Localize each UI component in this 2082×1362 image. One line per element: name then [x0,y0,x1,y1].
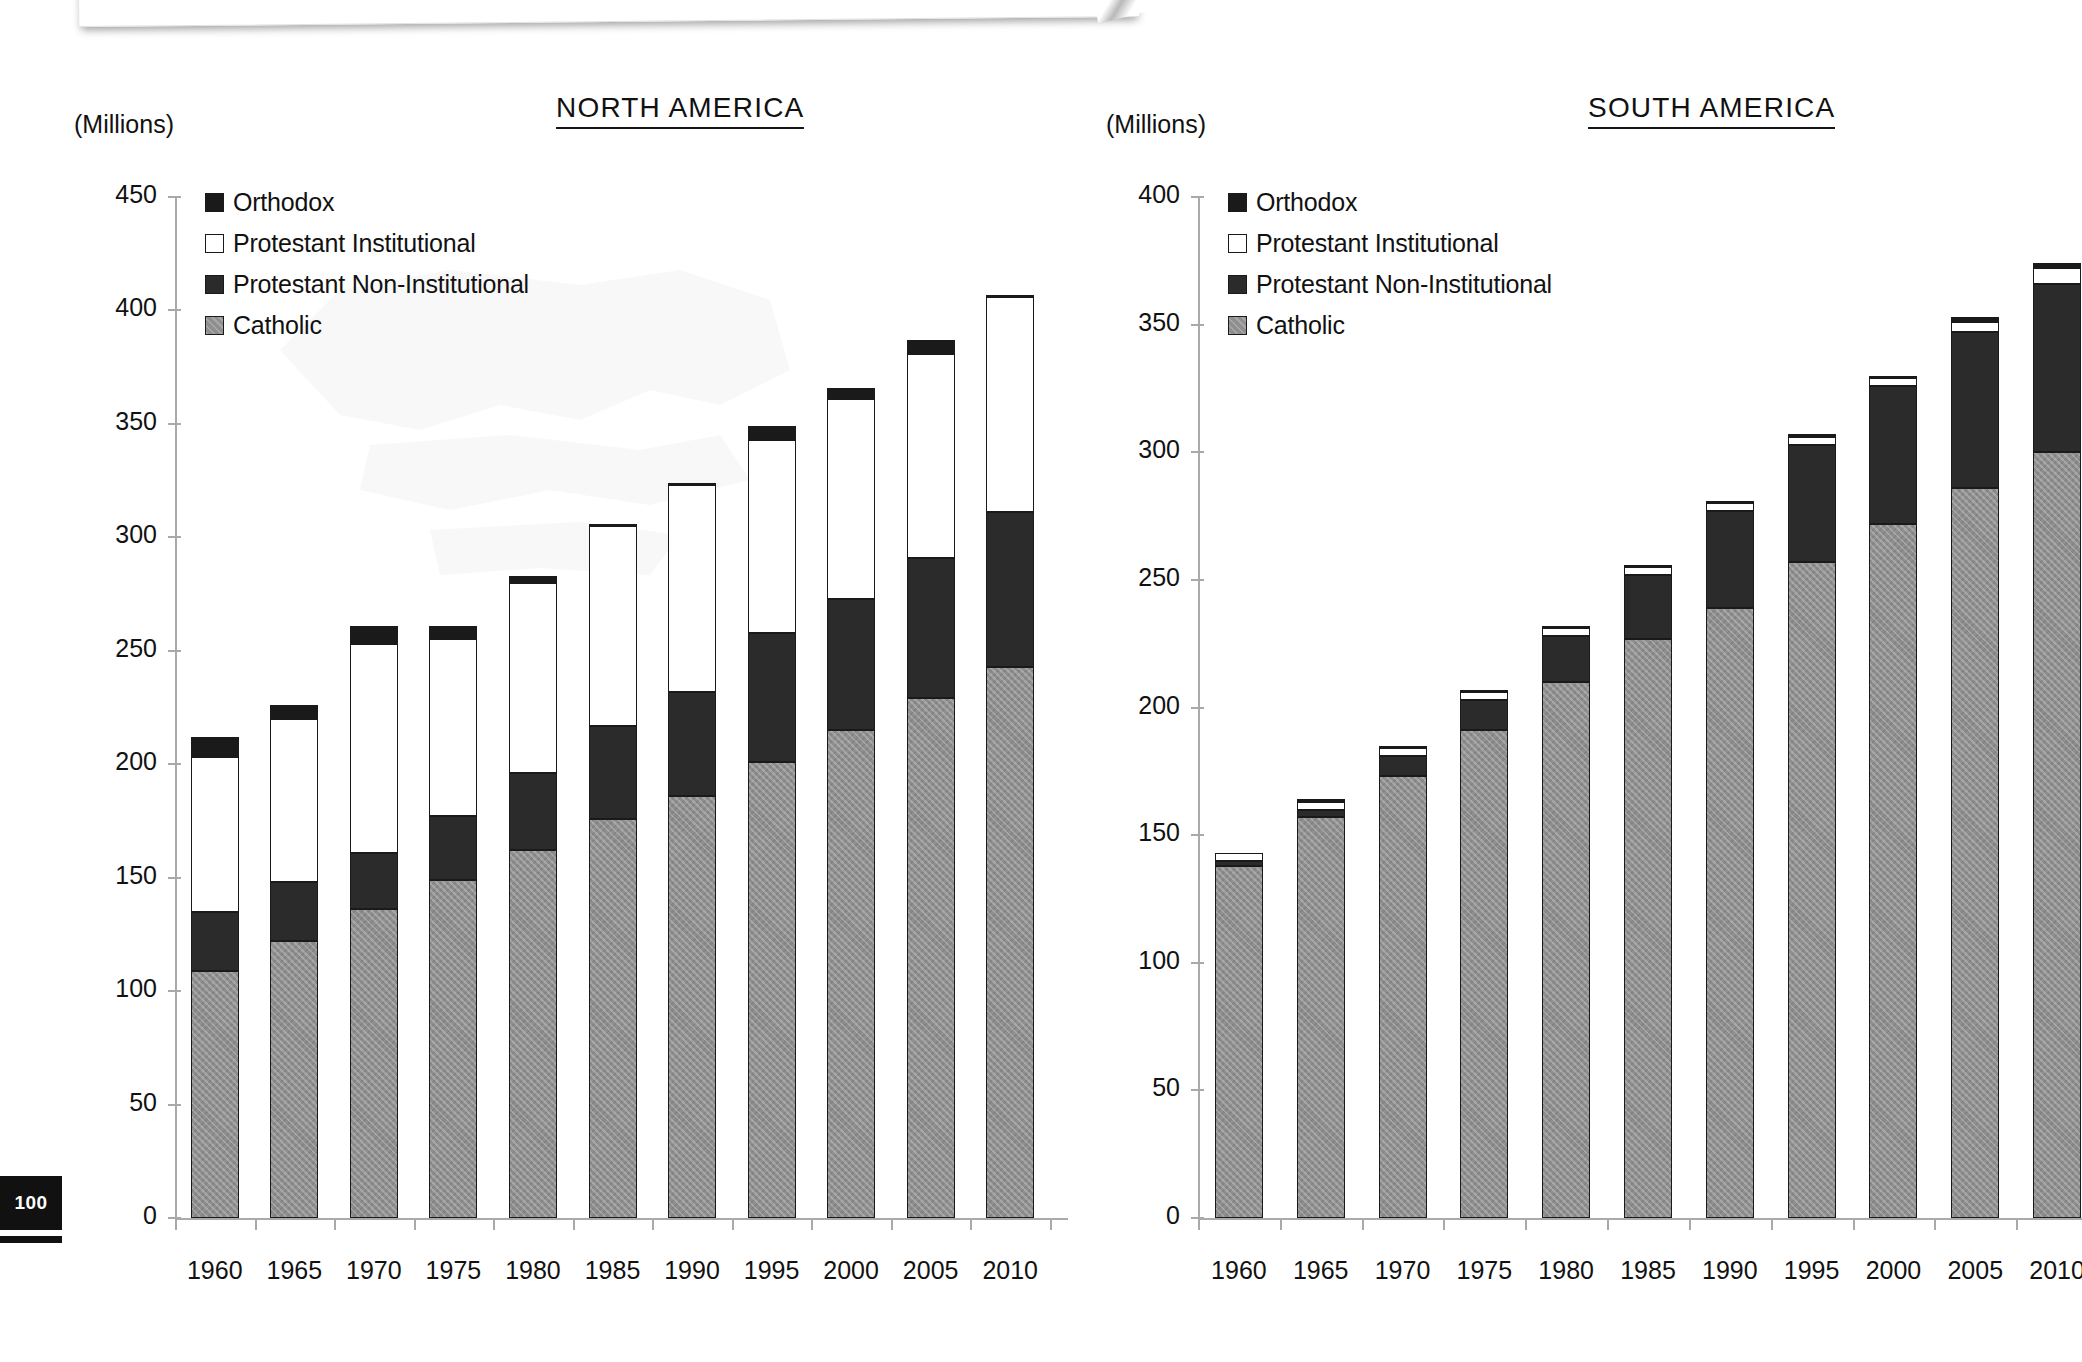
bar-segment-protestant-institutional[interactable] [429,639,477,816]
bar-segment-protestant-non-institutional[interactable] [1951,332,1999,488]
bar-segment-orthodox[interactable] [1951,317,1999,322]
bar-segment-catholic[interactable] [748,762,796,1218]
bar-segment-catholic[interactable] [1297,817,1345,1218]
stacked-bar[interactable] [986,197,1034,1218]
bar-segment-orthodox[interactable] [668,483,716,485]
bar-segment-catholic[interactable] [1215,866,1263,1218]
bar-segment-catholic[interactable] [668,796,716,1218]
legend-item[interactable]: Orthodox [205,189,529,215]
bar-segment-protestant-institutional[interactable] [1215,853,1263,861]
bar-segment-protestant-non-institutional[interactable] [1869,386,1917,524]
bar-segment-catholic[interactable] [1951,488,1999,1218]
bar-segment-orthodox[interactable] [907,340,955,354]
bar-segment-orthodox[interactable] [827,388,875,399]
bar-segment-protestant-non-institutional[interactable] [191,912,239,971]
bar-segment-protestant-non-institutional[interactable] [907,558,955,699]
bar-segment-protestant-institutional[interactable] [748,440,796,633]
bar-segment-orthodox[interactable] [986,295,1034,297]
bar-segment-protestant-institutional[interactable] [1788,437,1836,445]
bar-segment-protestant-non-institutional[interactable] [1379,756,1427,776]
stacked-bar[interactable] [1869,197,1917,1218]
bar-segment-orthodox[interactable] [509,576,557,583]
bar-segment-protestant-institutional[interactable] [907,354,955,558]
bar-segment-protestant-institutional[interactable] [589,526,637,726]
bar-segment-protestant-institutional[interactable] [191,757,239,911]
bar-segment-protestant-institutional[interactable] [1951,322,1999,332]
bar-segment-protestant-institutional[interactable] [827,399,875,599]
bar-segment-catholic[interactable] [1624,639,1672,1218]
legend-item[interactable]: Protestant Non-Institutional [205,271,529,297]
bar-segment-orthodox[interactable] [350,626,398,644]
bar-segment-catholic[interactable] [429,880,477,1218]
bar-segment-protestant-institutional[interactable] [986,297,1034,513]
bar-segment-protestant-non-institutional[interactable] [270,882,318,941]
bar-segment-protestant-non-institutional[interactable] [350,853,398,910]
bar-segment-orthodox[interactable] [2033,263,2081,268]
bar-segment-protestant-non-institutional[interactable] [1542,636,1590,682]
bar-segment-protestant-institutional[interactable] [509,583,557,774]
bar-segment-catholic[interactable] [270,941,318,1218]
bar-segment-protestant-institutional[interactable] [1706,503,1754,511]
bar-segment-protestant-institutional[interactable] [270,719,318,882]
bar-segment-catholic[interactable] [986,667,1034,1218]
bar-segment-catholic[interactable] [589,819,637,1218]
bar-segment-protestant-institutional[interactable] [350,644,398,853]
legend-item[interactable]: Catholic [1228,312,1552,338]
bar-segment-catholic[interactable] [509,850,557,1218]
bar-segment-protestant-non-institutional[interactable] [668,692,716,796]
bar-segment-orthodox[interactable] [1542,626,1590,629]
bar-segment-orthodox[interactable] [270,705,318,719]
bar-segment-orthodox[interactable] [1297,799,1345,802]
bar-segment-catholic[interactable] [2033,452,2081,1218]
bar-segment-protestant-institutional[interactable] [1379,748,1427,756]
bar-segment-protestant-non-institutional[interactable] [1297,810,1345,818]
bar-segment-catholic[interactable] [827,730,875,1218]
bar-segment-protestant-non-institutional[interactable] [748,633,796,762]
bar-segment-protestant-non-institutional[interactable] [827,599,875,731]
bar-segment-orthodox[interactable] [429,626,477,640]
stacked-bar[interactable] [1624,197,1672,1218]
bar-segment-orthodox[interactable] [589,524,637,526]
bar-segment-protestant-institutional[interactable] [1460,692,1508,700]
stacked-bar[interactable] [1706,197,1754,1218]
stacked-bar[interactable] [589,197,637,1218]
bar-segment-orthodox[interactable] [1624,565,1672,568]
bar-segment-protestant-non-institutional[interactable] [1706,511,1754,608]
bar-segment-protestant-non-institutional[interactable] [1215,861,1263,866]
bar-segment-orthodox[interactable] [1706,501,1754,504]
bar-segment-catholic[interactable] [191,971,239,1218]
bar-segment-catholic[interactable] [907,698,955,1218]
bar-segment-protestant-non-institutional[interactable] [1460,700,1508,731]
bar-segment-catholic[interactable] [1379,776,1427,1218]
bar-segment-protestant-non-institutional[interactable] [1788,445,1836,562]
bar-segment-protestant-non-institutional[interactable] [589,726,637,819]
bar-segment-orthodox[interactable] [1788,434,1836,437]
bar-segment-orthodox[interactable] [191,737,239,757]
bar-segment-orthodox[interactable] [1379,746,1427,749]
bar-segment-orthodox[interactable] [748,426,796,440]
bar-segment-protestant-non-institutional[interactable] [509,773,557,850]
legend-item[interactable]: Protestant Non-Institutional [1228,271,1552,297]
stacked-bar[interactable] [1788,197,1836,1218]
bar-segment-catholic[interactable] [1542,682,1590,1218]
stacked-bar[interactable] [827,197,875,1218]
legend-item[interactable]: Protestant Institutional [1228,230,1552,256]
stacked-bar[interactable] [907,197,955,1218]
legend-item[interactable]: Orthodox [1228,189,1552,215]
bar-segment-orthodox[interactable] [1869,376,1917,379]
bar-segment-protestant-non-institutional[interactable] [1624,575,1672,639]
bar-segment-catholic[interactable] [350,909,398,1218]
bar-segment-protestant-non-institutional[interactable] [429,816,477,880]
stacked-bar[interactable] [668,197,716,1218]
bar-segment-orthodox[interactable] [1460,690,1508,693]
bar-segment-protestant-institutional[interactable] [668,485,716,691]
bar-segment-protestant-non-institutional[interactable] [2033,284,2081,452]
bar-segment-protestant-non-institutional[interactable] [986,512,1034,666]
legend-item[interactable]: Protestant Institutional [205,230,529,256]
stacked-bar[interactable] [1951,197,1999,1218]
bar-segment-protestant-institutional[interactable] [1869,378,1917,386]
bar-segment-catholic[interactable] [1788,562,1836,1218]
bar-segment-protestant-institutional[interactable] [2033,268,2081,283]
bar-segment-catholic[interactable] [1460,730,1508,1218]
legend-item[interactable]: Catholic [205,312,529,338]
